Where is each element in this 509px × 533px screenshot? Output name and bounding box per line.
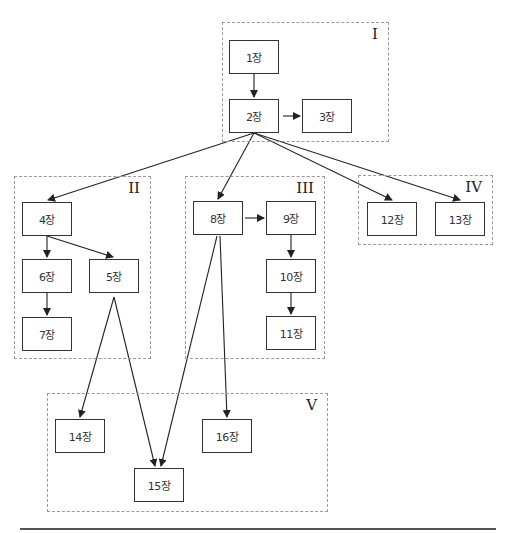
group-label: V [306,396,317,414]
group-label: IV [465,178,482,196]
group-label: I [372,25,378,43]
chapter-node-5: 5장 [89,259,139,293]
chapter-node-3: 3장 [302,99,352,133]
chapter-node-10: 10장 [266,259,316,293]
chapter-node-6: 6장 [22,259,72,293]
chapter-node-8: 8장 [193,201,243,235]
group-label: III [296,179,314,197]
chapter-node-2: 2장 [229,99,279,133]
group-label: II [128,179,140,197]
chapter-node-16: 16장 [202,419,252,453]
chapter-node-7: 7장 [22,317,72,351]
chapter-node-13: 13장 [435,202,485,236]
chapter-node-14: 14장 [55,419,105,453]
chapter-node-12: 12장 [367,202,417,236]
chapter-node-4: 4장 [22,202,72,236]
chapter-node-9: 9장 [266,201,316,235]
chapter-node-11: 11장 [266,316,316,350]
bottom-rule [20,528,496,530]
chapter-node-1: 1장 [229,40,279,74]
chapter-node-15: 15장 [134,468,184,502]
